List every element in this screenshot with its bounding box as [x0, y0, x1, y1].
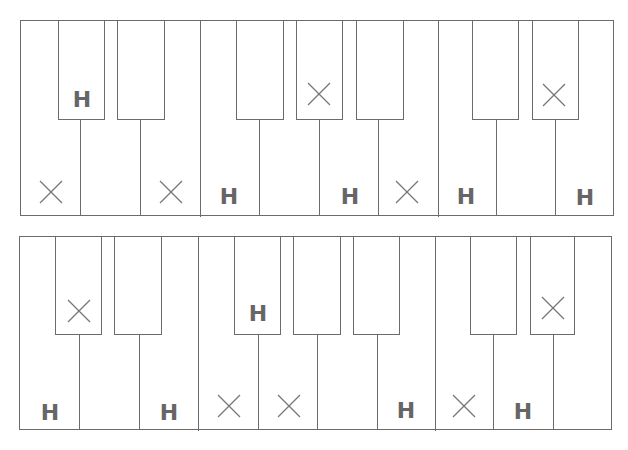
h-mark: H — [243, 299, 273, 329]
white-key-divider — [317, 334, 318, 430]
white-key-divider — [319, 119, 320, 216]
x-mark-icon — [392, 177, 422, 207]
black-key — [470, 236, 517, 335]
h-mark: H — [214, 182, 244, 212]
white-key-divider — [377, 334, 378, 430]
h-mark: H — [35, 398, 65, 428]
h-mark: H — [67, 85, 97, 115]
x-mark-icon — [64, 296, 94, 326]
black-key — [117, 20, 165, 120]
black-key — [293, 236, 341, 335]
black-key — [356, 20, 404, 120]
keyboard-top — [20, 20, 614, 216]
white-key-divider — [553, 334, 554, 430]
white-key-divider — [79, 334, 80, 430]
h-mark: H — [508, 397, 538, 427]
white-key-divider — [493, 334, 494, 430]
x-mark-icon — [449, 391, 479, 421]
x-mark-icon — [538, 293, 568, 323]
white-key-divider — [496, 119, 497, 216]
white-key-divider — [140, 119, 141, 216]
white-key-divider — [80, 119, 81, 216]
black-key — [472, 20, 519, 120]
white-key-divider-full — [435, 237, 436, 431]
white-key-divider-full — [198, 237, 199, 431]
x-mark-icon — [36, 177, 66, 207]
black-key — [114, 236, 162, 335]
black-key — [236, 20, 284, 120]
x-mark-icon — [214, 391, 244, 421]
h-mark: H — [335, 182, 365, 212]
black-key — [353, 236, 400, 335]
h-mark: H — [570, 183, 600, 213]
white-key-divider — [258, 334, 259, 430]
x-mark-icon — [274, 391, 304, 421]
white-key-divider — [259, 119, 260, 216]
white-key-divider-full — [200, 21, 201, 217]
white-key-divider — [555, 119, 556, 216]
white-key-divider — [139, 334, 140, 430]
h-mark: H — [451, 182, 481, 212]
x-mark-icon — [304, 79, 334, 109]
white-key-divider-full — [438, 21, 439, 217]
h-mark: H — [391, 396, 421, 426]
x-mark-icon — [156, 177, 186, 207]
white-key-divider — [378, 119, 379, 216]
x-mark-icon — [539, 80, 569, 110]
h-mark: H — [154, 398, 184, 428]
